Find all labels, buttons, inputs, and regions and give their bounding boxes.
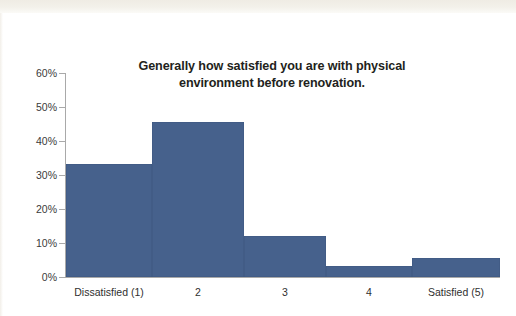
y-axis-labels: 60%50%40%30%20%10%0% (12, 0, 57, 316)
x-axis-label-4: 4 (366, 286, 372, 298)
y-axis-tick (59, 209, 65, 210)
y-axis-tick (59, 175, 65, 176)
x-axis-label-1: Dissatisfied (1) (74, 286, 143, 298)
y-axis-tick (59, 73, 65, 74)
y-axis-tick (59, 277, 65, 278)
y-axis-tick-label: 20% (17, 203, 57, 215)
bar-5 (412, 258, 500, 277)
x-axis-baseline (65, 277, 500, 278)
scan-artifact-top-band (0, 0, 516, 13)
y-axis-tick-label: 60% (17, 67, 57, 79)
plot-area (66, 73, 500, 277)
bar-1 (66, 164, 152, 277)
y-axis-tick-label: 30% (17, 169, 57, 181)
y-axis-tick (59, 107, 65, 108)
bar-4 (326, 266, 412, 277)
y-axis-tick-label: 10% (17, 237, 57, 249)
y-axis-tick-label: 40% (17, 135, 57, 147)
chart-container: Generally how satisfied you are with phy… (0, 0, 516, 316)
x-axis-labels: Dissatisfied (1)234Satisfied (5) (66, 286, 500, 308)
x-axis-label-5: Satisfied (5) (428, 286, 484, 298)
scan-artifact-left-edge (0, 13, 3, 316)
bar-2 (152, 122, 244, 277)
y-axis-tick (59, 243, 65, 244)
y-axis-tick-label: 0% (17, 271, 57, 283)
y-axis-tick (59, 141, 65, 142)
x-axis-label-3: 3 (282, 286, 288, 298)
bar-3 (244, 236, 326, 277)
y-axis-tick-label: 50% (17, 101, 57, 113)
x-axis-label-2: 2 (195, 286, 201, 298)
